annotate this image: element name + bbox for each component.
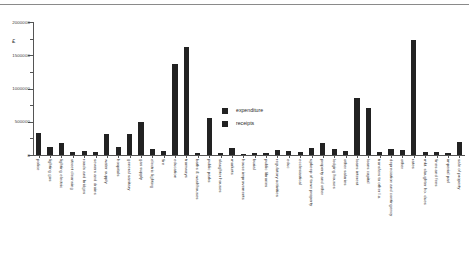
x-tick [437, 156, 438, 158]
x-axis-label: burial [252, 159, 257, 170]
bar [241, 154, 246, 155]
x-tick [266, 156, 267, 158]
x-axis-label: fire [161, 159, 166, 165]
x-tick [164, 156, 165, 158]
x-tick [368, 156, 369, 158]
bar [127, 134, 132, 155]
x-axis-label: lodging houses [331, 159, 336, 189]
x-tick [186, 156, 187, 158]
bar [309, 148, 314, 155]
x-tick [323, 156, 324, 158]
x-tick [221, 156, 222, 158]
legend-label-receipts: receipts [236, 120, 254, 126]
bar [93, 152, 98, 155]
x-axis-label: imperial parl [445, 159, 450, 183]
x-axis-label: depreciation and contingency [388, 159, 393, 216]
bar [116, 147, 121, 155]
x-axis-label: street cleansing [70, 159, 75, 190]
x-tick [175, 156, 176, 158]
bar [207, 118, 212, 155]
x-tick [118, 156, 119, 158]
x-tick [232, 156, 233, 158]
x-tick [107, 156, 108, 158]
bar [161, 151, 166, 155]
bar [263, 153, 268, 155]
legend-label-expenditure: expenditure [236, 107, 263, 113]
x-tick [312, 156, 313, 158]
x-axis-label: educ [286, 159, 291, 169]
x-tick [130, 156, 131, 158]
x-axis-label: fines and fees [434, 159, 439, 186]
bar [70, 152, 75, 155]
x-axis-label: tramways [183, 159, 188, 178]
y-tick-label: 1500000 [0, 53, 30, 58]
x-axis-label: rates [411, 159, 416, 169]
x-tick [448, 156, 449, 158]
x-axis-label: other salaries [343, 159, 348, 186]
bar [229, 148, 234, 155]
x-axis-label: police [36, 159, 41, 171]
bar [445, 153, 450, 155]
bar [82, 151, 87, 155]
x-tick [380, 156, 381, 158]
x-axis-label: ecclesiastical [297, 159, 302, 185]
x-axis-label: education [172, 159, 177, 178]
x-tick [198, 156, 199, 158]
plot-area [33, 22, 465, 155]
x-tick [141, 156, 142, 158]
bar [298, 152, 303, 155]
x-tick [152, 156, 153, 158]
x-axis-label: water supply [104, 159, 109, 184]
x-axis-labels: policelighting gaslighting electricstree… [33, 159, 465, 273]
x-tick [289, 156, 290, 158]
x-tick [277, 156, 278, 158]
y-axis-unit-symbol: £ [12, 38, 15, 44]
x-tick [73, 156, 74, 158]
x-axis-label: general sanitary [127, 159, 132, 190]
x-axis-label: public libraries [263, 159, 268, 187]
x-tick [50, 156, 51, 158]
bar [332, 149, 337, 155]
x-axis-label: sewers and drains [93, 159, 98, 195]
x-axis-label: mkt. slaughter ho. dues [422, 159, 427, 205]
bar [388, 149, 393, 155]
x-tick [39, 156, 40, 158]
bar [104, 134, 109, 155]
x-axis-label: lighting gas [47, 159, 52, 181]
bar [411, 40, 416, 155]
bar [377, 152, 382, 155]
x-tick [84, 156, 85, 158]
x-axis-label: sale of property [456, 159, 461, 189]
x-axis-label: loans interest [354, 159, 359, 185]
top-divider [0, 4, 469, 5]
bar [400, 150, 405, 155]
y-tick-label: 0 [0, 153, 30, 158]
x-tick [391, 156, 392, 158]
x-axis-label: hospitals [115, 159, 120, 176]
x-tick [96, 156, 97, 158]
x-axis-label: public parks [206, 159, 211, 183]
x-tick [255, 156, 256, 158]
bar [252, 153, 257, 155]
x-tick [357, 156, 358, 158]
bar [457, 142, 462, 155]
x-axis-label: house improvements [240, 159, 245, 200]
x-tick [300, 156, 301, 158]
x-axis-label: other [399, 159, 404, 169]
bar [184, 47, 189, 155]
x-tick [243, 156, 244, 158]
x-axis-label: gas supply [138, 159, 143, 180]
x-axis-label: slaughter houses [218, 159, 223, 193]
bar [320, 143, 325, 155]
x-axis-label: upkeep of town property [309, 159, 314, 206]
x-tick [414, 156, 415, 158]
x-axis-label: baths & washhouses [195, 159, 200, 200]
bar [138, 122, 143, 155]
bar [434, 152, 439, 155]
x-axis-label: electric lighting [149, 159, 154, 188]
bar [36, 133, 41, 155]
bar [275, 150, 280, 155]
x-axis-label: roads and bridges [81, 159, 86, 194]
bar-series-group [33, 22, 465, 155]
y-tick-label: 500000 [0, 119, 30, 124]
